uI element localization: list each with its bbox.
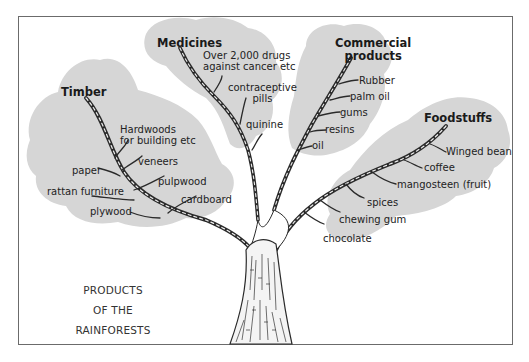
item-coffee: coffee — [424, 162, 455, 173]
item-chocolate: chocolate — [323, 233, 372, 244]
item-cardboard: cardboard — [181, 194, 232, 205]
category-commercial-products: Commercial products — [335, 37, 411, 62]
item-chewing-gum: chewing gum — [339, 214, 406, 225]
item-rubber: Rubber — [359, 75, 395, 86]
item-hardwoods: Hardwoods for building etc — [120, 124, 196, 146]
category-foodstuffs: Foodstuffs — [424, 112, 492, 125]
item-rattan-furniture: rattan furniture — [47, 186, 124, 197]
item-paper: paper — [72, 165, 101, 176]
item-plywood: plywood — [90, 206, 132, 217]
item-contraceptive-pills: contraceptive pills — [228, 82, 297, 104]
item-palm-oil: palm oil — [350, 91, 390, 102]
item-anticancer-drugs: Over 2,000 drugs against cancer etc — [203, 50, 296, 72]
category-timber: Timber — [61, 86, 106, 99]
item-mangosteen: mangosteen (fruit) — [397, 179, 491, 190]
item-resins: resins — [325, 124, 355, 135]
item-winged-bean: Winged bean — [446, 146, 512, 157]
item-oil: oil — [312, 140, 324, 151]
tree-trunk — [230, 210, 292, 344]
item-pulpwood: pulpwood — [158, 176, 207, 187]
item-spices: spices — [367, 197, 398, 208]
item-gums: gums — [340, 107, 368, 118]
item-veneers: veneers — [138, 156, 178, 167]
diagram-title: PRODUCTS OF THE RAINFORESTS — [63, 280, 163, 340]
item-quinine: quinine — [246, 119, 283, 130]
category-medicines: Medicines — [157, 37, 222, 50]
